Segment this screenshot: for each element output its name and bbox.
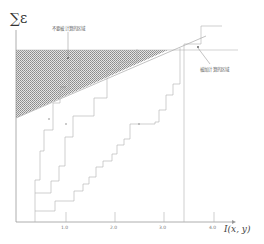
x-tick-label-1: 1.0 [61, 225, 68, 230]
top-region-annotation: 不要被计算的区域 [52, 25, 86, 31]
y-axis-label: ∑ε [10, 10, 27, 26]
diagram: ∑ε I(x, y) 不要被计算的区域 被加计算的区域 1.0 2.0 3.0 … [0, 0, 264, 244]
top-step [184, 26, 222, 44]
x-tick-label-3: 3.0 [159, 225, 166, 230]
x-tick-label-2: 2.0 [110, 225, 117, 230]
curve-c-marker-icon [138, 123, 140, 125]
right-annotation-dot-icon [197, 46, 199, 48]
curve-s-marker-icon [48, 118, 50, 120]
right-region-annotation: 被加计算的区域 [200, 66, 229, 72]
curve-g-marker-icon [65, 123, 67, 125]
top-annotation-dot-icon [67, 57, 69, 59]
x-tick-label-4: 4.0 [209, 225, 216, 230]
x-axis-label: I(x, y) [224, 224, 250, 234]
right-annotation-leader [198, 48, 210, 64]
diagram-canvas [0, 0, 264, 244]
